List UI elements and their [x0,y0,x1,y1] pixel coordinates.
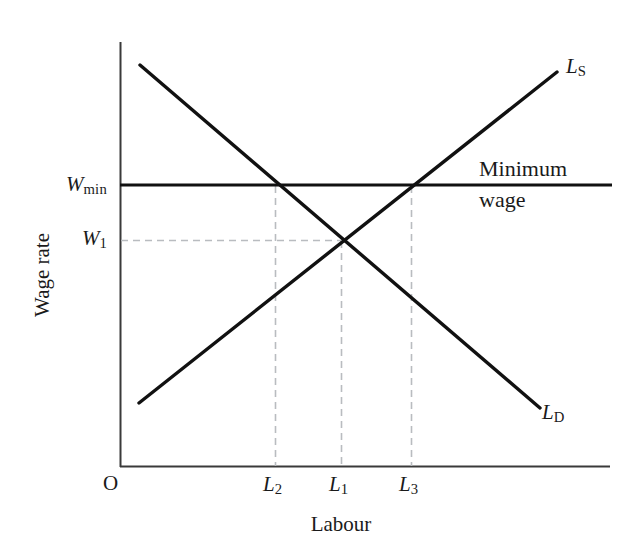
labour-supply-curve-label: LS [566,56,586,79]
x-tick-label-l1: L1 [329,474,348,497]
labour-supply-curve [139,72,557,403]
curves-group [120,65,612,408]
ld-base: L [542,400,554,424]
l3-base: L [399,472,411,496]
x-tick-label-l2: L2 [263,474,282,497]
x-tick-label-l3: L3 [399,474,418,497]
l2-subscript: 2 [275,481,283,497]
wmin-base: W [66,172,84,196]
minimum-wage-annotation-line2: wage [479,189,525,211]
l2-base: L [263,472,275,496]
w1-subscript: 1 [100,235,108,251]
ls-base: L [566,54,578,78]
guide-lines-group [121,186,412,466]
figure-canvas: Wage rate Labour O Wmin W1 L2 L1 L3 LS L… [0,0,633,551]
ld-subscript: D [554,409,565,425]
y-tick-label-w1: W1 [82,228,107,251]
y-tick-label-wmin: Wmin [66,174,107,197]
ls-subscript: S [578,63,586,79]
l3-subscript: 3 [411,481,419,497]
l1-subscript: 1 [341,481,349,497]
x-axis-title: Labour [243,514,439,535]
wmin-subscript: min [84,181,107,197]
labour-market-diagram [0,0,633,551]
l1-base: L [329,472,341,496]
minimum-wage-annotation-line1: Minimum [479,158,567,180]
labour-demand-curve-label: LD [542,402,565,425]
y-axis-title: Wage rate [32,175,53,375]
origin-label: O [103,473,118,494]
w1-base: W [82,226,100,250]
